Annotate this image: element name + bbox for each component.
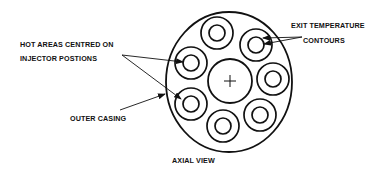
axial-view-caption: AXIAL VIEW	[172, 156, 215, 165]
hot-areas-arrows	[122, 55, 183, 99]
injector-top	[201, 17, 233, 49]
injector-right	[257, 63, 289, 95]
exit-temperature-label-line1: EXIT TEMPERATURE	[291, 21, 365, 30]
outer-casing-arrow	[120, 94, 165, 110]
diagram-canvas: HOT AREAS CENTRED ON INJECTOR POSTIONS O…	[0, 0, 384, 172]
injector-lower-left	[175, 88, 207, 120]
hot-areas-label-line2: INJECTOR POSTIONS	[20, 54, 97, 63]
injector-bottom	[207, 110, 239, 142]
exit-temperature-label-line2: CONTOURS	[303, 36, 345, 45]
hot-areas-label-line1: HOT AREAS CENTRED ON	[20, 40, 114, 49]
injector-upper-left	[175, 47, 207, 79]
injector-lower-right	[244, 99, 276, 131]
exit-temperature-arrows	[263, 37, 302, 44]
center-cross-icon	[224, 75, 236, 87]
outer-casing-label: OUTER CASING	[70, 114, 126, 123]
injector-upper-right	[240, 29, 272, 61]
